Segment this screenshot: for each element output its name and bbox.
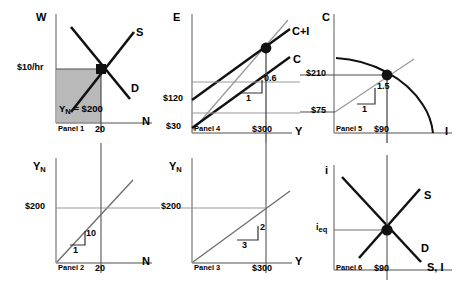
panel3-y-axis-label: YN <box>169 161 182 174</box>
panel6-demand-curve-label: D <box>421 243 429 254</box>
panel5-consumption-tick-label: $210 <box>306 69 326 78</box>
panel3-output-tick-label: $300 <box>252 264 272 273</box>
panel1-y-axis-label: W <box>36 12 46 23</box>
panel6-quantity-tick-label: $90 <box>374 264 389 273</box>
panel4-slope-rise-label: 0.6 <box>264 74 277 83</box>
panel5-x-axis-label: I <box>445 126 448 137</box>
panel4-y-axis-label: E <box>173 12 180 23</box>
panel2-income-line <box>57 180 133 262</box>
panel6-supply-curve-label: S <box>424 190 431 201</box>
panel1-name-label: Panel 1 <box>58 125 84 133</box>
panel1-supply-curve-label: S <box>136 27 143 38</box>
panel2-y-axis-label: YN <box>33 161 46 174</box>
panel2-y-axis-subscript: N <box>40 165 45 174</box>
panel4-slope-run-label: 1 <box>246 94 251 103</box>
panel2-x-axis-label: N <box>142 256 150 267</box>
panel6-x-axis-label: S, I <box>427 262 444 273</box>
panel5-slope-run-label: 1 <box>362 105 367 114</box>
panel4-autonomous-consumption-tick-label: $30 <box>166 122 181 131</box>
panel5-investment-tick-label: $90 <box>374 125 389 134</box>
panel4-equilibrium-marker <box>261 43 272 54</box>
panel1-employment-tick-label: 20 <box>95 125 105 134</box>
panel4-name-label: Panel 4 <box>194 125 220 133</box>
panel6-y-axis-label: i <box>325 165 328 176</box>
panel6-demand-curve <box>342 177 421 262</box>
panel6-supply-curve <box>359 189 420 258</box>
panel4-consumption-plus-investment-label: C+I <box>292 26 309 37</box>
panel3-income-share-line <box>193 191 290 262</box>
panel3-name-label: Panel 3 <box>194 264 220 272</box>
panel1-labour-income-label: YN = $200 <box>59 104 103 116</box>
panel1-wage-tick-label: $10/hr <box>17 63 44 72</box>
panel2-slope-triangle <box>70 231 85 245</box>
panel3-income-tick-label: $200 <box>161 202 181 211</box>
panel4-consumption-label: C <box>293 54 301 65</box>
panel3-slope-rise-label: 2 <box>260 223 265 232</box>
panel5-y-axis-label: C <box>322 12 330 23</box>
figure-svg <box>0 0 466 293</box>
panel2-slope-rise-label: 10 <box>86 229 96 238</box>
panel3-slope-run-label: 3 <box>242 241 247 250</box>
panel5-slope-rise-label: 1.5 <box>377 82 390 91</box>
panel4-consumption-plus-investment-curve <box>192 29 290 100</box>
panel1-demand-curve-label: D <box>131 83 139 94</box>
economics-six-panel-figure: W N $10/hr 20 S D YN = $200 Panel 1 E Y … <box>0 0 466 293</box>
panel2-name-label: Panel 2 <box>58 264 84 272</box>
panel3-y-axis-subscript: N <box>176 165 181 174</box>
panel5-equilibrium-marker <box>382 70 393 81</box>
panel2-income-tick-label: $200 <box>25 202 45 211</box>
panel6-name-label: Panel 6 <box>336 264 362 272</box>
panel5-production-possibility-frontier <box>336 58 433 133</box>
panel1-labour-income-value: = $200 <box>71 103 103 114</box>
panel6-interest-subscript: eq <box>319 225 328 234</box>
panel2-employment-tick-label: 20 <box>95 264 105 273</box>
panel6-equilibrium-marker <box>381 224 392 235</box>
panel5-name-label: Panel 5 <box>336 125 362 133</box>
panel1-x-axis-label: N <box>142 116 150 127</box>
panel3-x-axis-label: Y <box>295 256 302 267</box>
panel4-x-axis-label: Y <box>295 126 302 137</box>
panel4-autonomous-expenditure-tick-label: $120 <box>163 94 183 103</box>
panel6-equilibrium-interest-tick-label: ieq <box>316 223 327 234</box>
panel4-output-tick-label: $300 <box>252 125 272 134</box>
panel5-saving-tick-label: $75 <box>311 106 326 115</box>
panel2-slope-run-label: 1 <box>73 246 78 255</box>
panel1-equilibrium-marker <box>96 64 106 74</box>
